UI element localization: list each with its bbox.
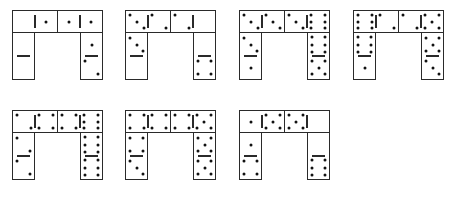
domino-half-3 [126, 11, 148, 32]
domino-half-1 [81, 33, 102, 56]
pip-dot [68, 20, 71, 23]
pip-dot [129, 150, 132, 153]
right-vertical-domino [80, 32, 103, 80]
pip-dot [16, 159, 19, 162]
pip-dot [203, 166, 206, 169]
pip-dot [151, 14, 154, 17]
pip-dot [151, 114, 154, 117]
domino-divider [192, 115, 193, 128]
domino-half-1 [58, 11, 80, 32]
domino-half-1 [240, 133, 261, 156]
pip-dot [203, 120, 206, 123]
pip-dot [310, 27, 313, 30]
pip-dot [369, 50, 372, 53]
pip-dot [209, 136, 212, 139]
pip-dot [174, 14, 177, 17]
domino-puzzle-1 [12, 10, 104, 92]
pip-dot [129, 14, 132, 17]
pip-dot [437, 36, 440, 39]
domino-half-5 [193, 111, 215, 132]
right-vertical-domino [193, 32, 216, 80]
pip-dot [209, 114, 212, 117]
domino-divider [192, 15, 193, 28]
domino-half-2 [376, 11, 398, 32]
pip-dot [363, 66, 366, 69]
pip-dot [370, 13, 373, 16]
pip-dot [243, 173, 246, 176]
pip-dot [370, 20, 373, 23]
pip-dot [141, 150, 144, 153]
pip-dot [29, 126, 32, 129]
top-left-domino [125, 10, 171, 33]
domino-half-2 [13, 111, 35, 132]
pip-dot [196, 114, 199, 117]
domino-half-2 [13, 156, 34, 179]
pip-dot [141, 136, 144, 139]
pip-dot [96, 173, 99, 176]
pip-dot [369, 36, 372, 39]
top-left-domino [12, 10, 58, 33]
pip-dot [323, 166, 326, 169]
pip-dot [323, 59, 326, 62]
pip-dot [311, 43, 314, 46]
pip-dot [197, 150, 200, 153]
right-vertical-domino [307, 132, 330, 180]
pip-dot [357, 27, 360, 30]
top-right-domino [170, 10, 216, 33]
pip-dot [425, 36, 428, 39]
pip-dot [370, 27, 373, 30]
pip-dot [197, 173, 200, 176]
pip-dot [197, 159, 200, 162]
domino-half-4 [126, 111, 148, 132]
pip-dot [301, 26, 304, 29]
pip-dot [424, 26, 427, 29]
top-left-domino [239, 110, 285, 133]
pip-dot [250, 120, 253, 123]
pip-dot [256, 26, 259, 29]
pip-dot [278, 126, 281, 129]
domino-half-6 [354, 33, 375, 56]
pip-dot [84, 143, 87, 146]
left-vertical-domino [239, 132, 262, 180]
top-right-domino [284, 10, 330, 33]
domino-half-5 [308, 56, 329, 79]
pip-dot [250, 20, 253, 23]
domino-divider [244, 55, 257, 56]
domino-half-6 [80, 111, 102, 132]
pip-dot [90, 20, 93, 23]
pip-dot [129, 114, 132, 117]
pip-dot [28, 173, 31, 176]
domino-half-3 [240, 11, 262, 32]
pip-dot [135, 43, 138, 46]
domino-divider [79, 115, 80, 128]
pip-dot [311, 50, 314, 53]
domino-divider [375, 15, 376, 28]
domino-half-3 [240, 33, 261, 56]
domino-divider [34, 115, 35, 128]
domino-half-4 [171, 111, 193, 132]
pip-dot [164, 126, 167, 129]
pip-dot [255, 50, 258, 53]
pip-dot [425, 50, 428, 53]
pip-dot [431, 43, 434, 46]
pip-dot [437, 73, 440, 76]
pip-dot [357, 36, 360, 39]
pip-dot [323, 73, 326, 76]
pip-dot [288, 114, 291, 117]
pip-dot [136, 20, 139, 23]
pip-dot [209, 150, 212, 153]
pip-dot [311, 159, 314, 162]
domino-divider [85, 155, 98, 156]
right-vertical-domino [421, 32, 444, 80]
pip-dot [151, 126, 154, 129]
pip-dot [74, 114, 77, 117]
pip-dot [425, 59, 428, 62]
domino-half-0 [13, 33, 34, 56]
pip-dot [84, 166, 87, 169]
pip-dot [369, 43, 372, 46]
pip-dot [272, 20, 275, 23]
pip-dot [51, 114, 54, 117]
domino-divider [420, 15, 421, 28]
domino-puzzle-7 [239, 110, 331, 192]
pip-dot [323, 159, 326, 162]
